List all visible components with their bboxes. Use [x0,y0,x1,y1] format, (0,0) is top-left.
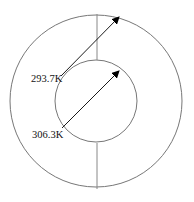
inner-temperature-label: 306.3K [32,130,63,141]
inner-circle [55,60,137,142]
diagram-canvas [0,0,194,202]
outer-temperature-label: 293.7K [31,74,62,85]
inner-radius-arrow [62,71,119,128]
outer-radius-arrow [61,17,119,76]
